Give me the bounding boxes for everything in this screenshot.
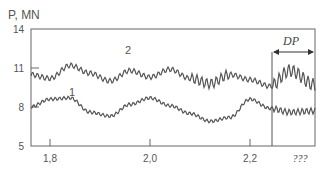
curve-2-label: 2	[125, 44, 131, 56]
chart: P, MN 141185 1,82,02,2??? 2 1 DP	[0, 0, 327, 173]
y-axis-title: P, MN	[8, 8, 40, 22]
x-tick-label: 2,2	[243, 153, 257, 164]
x-tick-label: ???	[293, 153, 308, 164]
x-axis-ticks: 1,82,02,2???	[43, 139, 307, 164]
y-tick-label: 5	[18, 141, 24, 152]
y-axis-ticks: 141185	[13, 24, 39, 152]
dp-label: DP	[282, 34, 300, 48]
curve-1-label: 1	[69, 86, 75, 98]
x-tick-label: 2,0	[143, 153, 157, 164]
x-tick-label: 1,8	[43, 153, 57, 164]
y-tick-label: 8	[18, 102, 24, 113]
y-tick-label: 14	[13, 24, 25, 35]
y-tick-label: 11	[14, 63, 25, 74]
dp-arrow-right-icon	[308, 49, 314, 55]
dp-arrow-left-icon	[273, 49, 279, 55]
